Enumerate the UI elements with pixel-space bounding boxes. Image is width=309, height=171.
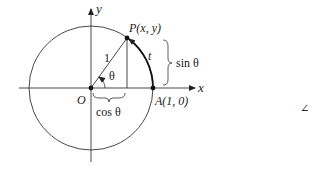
radius-label: 1 <box>104 51 110 65</box>
point-a-label: A(1, 0) <box>154 94 188 108</box>
cos-label: cos θ <box>96 105 121 119</box>
sin-label: sin θ <box>176 56 199 70</box>
arc-t <box>129 39 153 88</box>
point-a <box>151 86 156 91</box>
cos-brace <box>93 93 125 102</box>
sin-brace <box>163 40 172 85</box>
origin-label: O <box>77 93 86 107</box>
point-p <box>125 36 130 41</box>
y-axis-label: y <box>94 1 102 16</box>
arc-label: t <box>148 49 152 63</box>
angle-theta-arc <box>99 77 105 88</box>
angle-label: θ <box>109 69 115 83</box>
origin-point <box>89 86 94 91</box>
angle-symbol: ∠ <box>300 102 309 114</box>
x-axis-label: x <box>197 80 204 95</box>
unit-circle-diagram: y x P(x, y) O A(1, 0) 1 θ t sin θ cos θ … <box>0 0 309 171</box>
point-p-label: P(x, y) <box>128 21 161 35</box>
